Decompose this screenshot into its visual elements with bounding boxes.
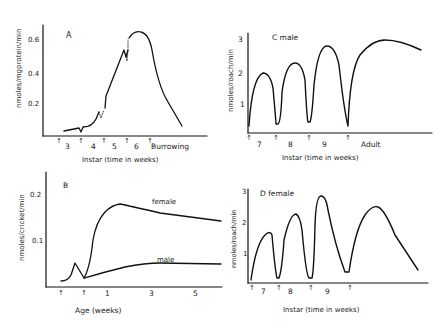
activity-curve	[64, 112, 99, 132]
x-tick: 5	[112, 142, 117, 151]
panel-label: D female	[260, 189, 294, 198]
x-tick: 9	[322, 140, 327, 149]
x-tick: 1	[105, 289, 110, 298]
female-curve	[61, 204, 221, 281]
molt-arrow-icon: ↑	[249, 284, 255, 292]
x-tick: 8	[288, 140, 293, 149]
molt-arrow-icon: ↑	[124, 137, 130, 145]
legend-female: female	[152, 198, 176, 206]
x-tick: 4	[91, 142, 96, 151]
y-tick: 0.4	[28, 70, 40, 78]
legend-male: male	[157, 256, 174, 264]
y-tick: 3	[242, 188, 246, 196]
figure: A 0.2 0.4 0.6 nmoles/mgprotein/min ↑ ↑ ↑…	[0, 0, 444, 329]
male-curve	[84, 263, 221, 278]
x-tick: 5	[193, 289, 198, 298]
panel-label: C male	[272, 33, 299, 42]
y-tick: 2	[238, 69, 243, 78]
molt-arrow-icon: ↑	[58, 289, 64, 297]
male-curve	[249, 40, 421, 126]
panel-d: D female 3 2 1 nmoles/roach/min ↑ ↑ ↑ ↑ …	[230, 188, 428, 314]
y-tick: 2	[242, 219, 246, 227]
x-axis-label: Age (weeks)	[75, 306, 121, 315]
molt-arrow-icon: ↑	[246, 134, 252, 142]
y-tick: 0.1	[32, 237, 43, 245]
y-tick: 0.6	[28, 36, 40, 44]
y-axis-label: nmoles/roach/min	[227, 49, 235, 112]
molt-arrow-icon: ↑	[81, 289, 87, 297]
molt-arrow-icon: ↑	[56, 137, 62, 145]
molt-arrow-icon: ↑	[101, 137, 107, 145]
y-axis-label: nmoles/roach/min	[230, 210, 238, 268]
x-axis-label: Instar (time in weeks)	[82, 156, 159, 164]
y-tick: 1	[243, 250, 247, 258]
molt-arrow-icon: ↑	[78, 137, 84, 145]
x-tick: 7	[261, 287, 266, 296]
x-tick: 3	[149, 289, 154, 298]
y-axis-label: nmoles/mgprotein/min	[15, 29, 23, 109]
x-tick: 7	[257, 140, 262, 149]
panel-b: B 0.2 0.1 nmoles/cricket/min female male…	[18, 172, 222, 315]
molt-arrow-icon: ↑	[276, 284, 282, 292]
molt-arrow-icon: ↑	[273, 134, 279, 142]
molt-arrow-icon: ↑	[347, 284, 353, 292]
x-axis-label: Instar (time in weeks)	[283, 306, 360, 314]
x-tick: 3	[65, 142, 70, 151]
panel-label: B	[63, 181, 68, 190]
molt-arrow-icon: ↑	[308, 284, 314, 292]
y-axis-label: nmoles/cricket/min	[18, 194, 26, 261]
molt-arrow-icon: ↑	[306, 134, 312, 142]
y-tick: 3	[238, 35, 243, 44]
x-tick: 6	[134, 142, 139, 151]
panel-c: C male 3 2 1 nmoles/roach/min ↑ ↑ ↑ ↑ 7 …	[227, 33, 432, 162]
x-axis-label: Instar (time in weeks)	[282, 154, 359, 162]
molt-arrow-icon: ↑	[345, 134, 351, 142]
y-tick: 0.2	[28, 100, 39, 108]
x-tick: 9	[325, 287, 330, 296]
x-tick: Burrowing	[151, 142, 189, 151]
y-tick: 1	[240, 100, 245, 109]
female-curve	[251, 196, 418, 280]
y-tick: 0.2	[30, 191, 41, 199]
panel-label: A	[66, 31, 72, 40]
x-tick: 8	[288, 287, 293, 296]
x-tick: Adult	[361, 140, 381, 149]
panel-a: A 0.2 0.4 0.6 nmoles/mgprotein/min ↑ ↑ ↑…	[15, 25, 207, 164]
